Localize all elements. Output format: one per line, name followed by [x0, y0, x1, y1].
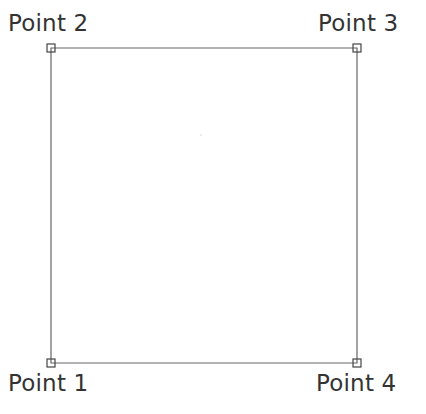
point-1-label: Point 1: [8, 372, 88, 395]
center-mark: [201, 135, 202, 136]
rectangle-outline: [51, 48, 357, 363]
point-2-label: Point 2: [8, 12, 88, 35]
point-3-label: Point 3: [318, 12, 398, 35]
diagram-canvas: [0, 0, 426, 414]
point-4-label: Point 4: [316, 372, 396, 395]
